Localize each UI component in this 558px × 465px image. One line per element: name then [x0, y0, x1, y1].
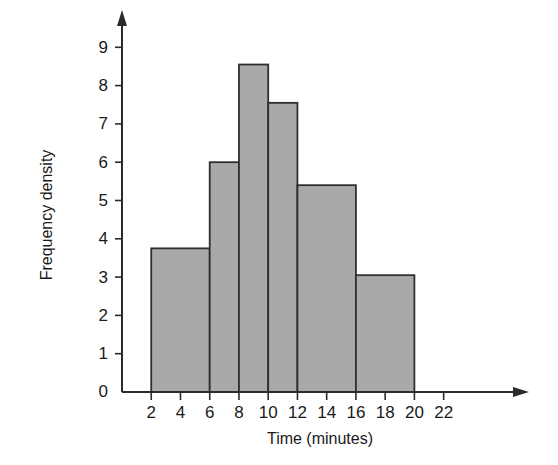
x-axis-tick-label: 4 [176, 403, 185, 422]
histogram-bar [239, 65, 268, 392]
histogram-bar [268, 103, 297, 392]
x-axis-tick-label: 16 [346, 403, 365, 422]
x-axis-tick-label: 8 [234, 403, 243, 422]
histogram-bar [151, 248, 209, 392]
y-axis-title: Frequency density [38, 150, 55, 281]
histogram-bar [297, 185, 355, 392]
histogram-bar [356, 275, 414, 392]
y-axis-tick-label: 1 [99, 344, 108, 363]
page-root: 7. 0123456789 246810121416182022 Frequen… [0, 0, 558, 465]
y-axis-tick-label: 2 [99, 306, 108, 325]
x-axis-tick-label: 22 [434, 403, 453, 422]
y-axis-tick-label: 9 [99, 38, 108, 57]
histogram-bar [210, 162, 239, 392]
y-axis-tick-label: 6 [99, 153, 108, 172]
histogram-figure: 0123456789 246810121416182022 Frequency … [0, 0, 558, 465]
y-axis-tick-label: 4 [99, 229, 108, 248]
y-axis-tick-label: 7 [99, 114, 108, 133]
x-axis-tick-label: 12 [288, 403, 307, 422]
x-axis-tick-label: 18 [376, 403, 395, 422]
y-axis-tick-label: 5 [99, 191, 108, 210]
x-axis-tick-label: 2 [147, 403, 156, 422]
x-axis-tick-label: 14 [317, 403, 336, 422]
x-axis-tick-label: 20 [405, 403, 424, 422]
x-axis-title: Time (minutes) [267, 430, 373, 447]
x-axis-tick-label: 6 [205, 403, 214, 422]
y-axis-tick-label: 3 [99, 268, 108, 287]
y-axis-tick-label: 8 [99, 76, 108, 95]
histogram-svg: 0123456789 246810121416182022 Frequency … [0, 0, 558, 465]
y-axis-tick-label: 0 [99, 382, 108, 401]
x-axis-tick-label: 10 [259, 403, 278, 422]
